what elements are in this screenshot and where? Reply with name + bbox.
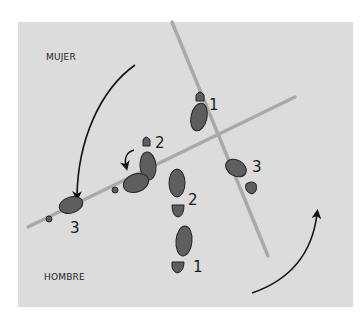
step-number-man-3: 3 — [252, 158, 262, 176]
footprint-toe-woman-1 — [196, 92, 204, 101]
footprint-dot-small — [112, 187, 118, 193]
footprint-heel-man-2 — [172, 205, 184, 217]
footprint-sole-woman-3 — [57, 194, 85, 217]
step-number-woman-2: 2 — [155, 134, 165, 152]
footprint-toe-woman-2 — [143, 137, 150, 146]
footprint-sole-man-1 — [175, 225, 194, 256]
curved-arrow-icon-bottom-right — [252, 214, 317, 293]
dance-step-diagram: 1 2 3 2 1 3 — [0, 0, 361, 318]
step-number-woman-3: 3 — [70, 219, 80, 237]
label-man: HOMBRE — [44, 272, 85, 282]
footprint-heel-man-3 — [246, 182, 257, 194]
step-number-man-2: 2 — [188, 191, 198, 209]
guide-line-steep — [172, 22, 268, 256]
step-number-man-1: 1 — [193, 258, 203, 276]
step-number-woman-1: 1 — [209, 96, 219, 114]
curved-arrow-icon-top-left — [77, 65, 135, 196]
small-curved-arrow-icon — [125, 150, 134, 166]
footprint-heel-man-1 — [172, 262, 184, 273]
label-woman: MUJER — [46, 52, 76, 62]
footprint-dot-woman-3 — [46, 216, 52, 222]
footprint-sole-man-2 — [169, 169, 185, 197]
